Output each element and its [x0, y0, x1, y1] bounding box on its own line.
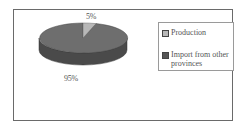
legend-label: Production — [171, 28, 206, 37]
chart-legend: Production Import from other provinces — [158, 22, 234, 71]
legend-swatch-icon — [162, 52, 169, 59]
legend-swatch-icon — [162, 30, 169, 37]
data-label-production: 5% — [86, 12, 96, 21]
data-label-import: 95% — [64, 74, 78, 83]
legend-item-production: Production — [162, 28, 206, 37]
legend-label: Import from other provinces — [171, 50, 233, 68]
legend-item-import: Import from other provinces — [162, 50, 233, 68]
